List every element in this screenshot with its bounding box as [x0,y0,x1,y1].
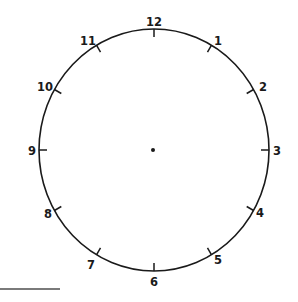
hour-tick-8 [54,207,61,211]
hour-label-12: 12 [146,15,162,29]
hour-numbers: 12 1 2 3 4 5 6 7 8 9 10 11 [28,15,281,289]
hour-tick-10 [54,90,61,94]
hour-tick-1 [208,45,212,52]
clock-face: 12 1 2 3 4 5 6 7 8 9 10 11 [0,0,298,302]
hour-tick-2 [247,90,254,94]
hour-label-4: 4 [256,206,264,220]
hour-tick-7 [97,248,101,255]
hour-label-6: 6 [150,275,158,289]
bottom-rule-line [0,288,60,290]
hour-tick-4 [247,207,254,211]
hour-label-9: 9 [28,144,36,158]
hour-label-8: 8 [44,207,52,221]
hour-label-11: 11 [80,34,96,48]
hour-tick-11 [97,45,101,52]
center-dot [151,148,155,152]
hour-label-2: 2 [259,80,267,94]
hour-label-1: 1 [214,34,222,48]
hour-label-5: 5 [214,253,222,267]
hour-label-3: 3 [273,144,281,158]
hour-tick-5 [208,248,212,255]
hour-label-10: 10 [37,80,53,94]
hour-label-7: 7 [87,258,95,272]
